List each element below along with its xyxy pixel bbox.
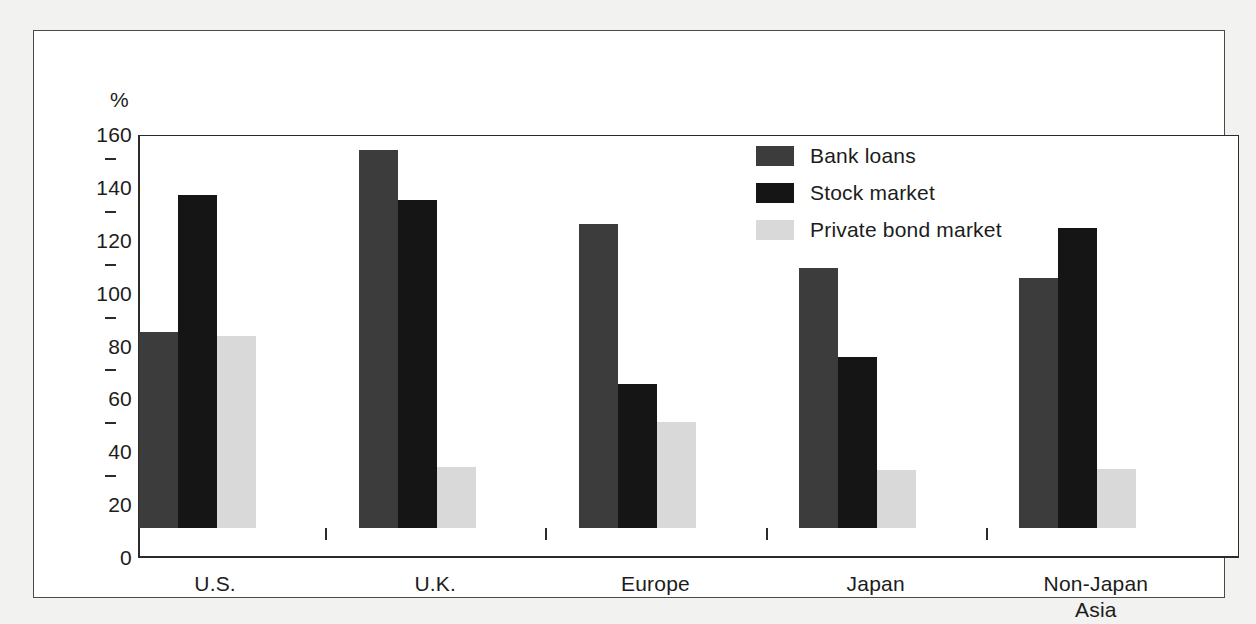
bar xyxy=(398,200,437,528)
x-axis-category-line: Asia xyxy=(986,597,1206,623)
x-axis-group-tick xyxy=(325,528,327,540)
y-axis-tick-mark xyxy=(105,264,116,266)
x-axis-category-label: Non-JapanAsia xyxy=(986,571,1206,623)
y-axis-tick-label: 120 xyxy=(70,229,132,253)
y-axis-tick-mark xyxy=(105,158,116,160)
legend-swatch-icon xyxy=(756,183,794,203)
y-axis-tick-label: 80 xyxy=(70,335,132,359)
bar xyxy=(359,150,398,528)
chart-legend: Bank loansStock marketPrivate bond marke… xyxy=(756,141,1002,252)
y-axis-tick-label: 140 xyxy=(70,176,132,200)
y-axis-tick-label: 0 xyxy=(70,546,132,570)
y-axis-tick-mark xyxy=(105,317,116,319)
x-axis-category-line: U.S. xyxy=(105,571,325,597)
x-axis-category-line: Non-Japan xyxy=(986,571,1206,597)
bar xyxy=(618,384,657,528)
x-axis-category-label: U.K. xyxy=(325,571,545,597)
bar xyxy=(877,470,916,528)
legend-label: Stock market xyxy=(810,181,935,205)
y-axis-tick-mark xyxy=(105,369,116,371)
y-axis-tick-mark xyxy=(105,475,116,477)
bar xyxy=(437,467,476,528)
legend-item: Private bond market xyxy=(756,215,1002,245)
y-axis-tick-label: 160 xyxy=(70,123,132,147)
bar xyxy=(657,422,696,528)
bar xyxy=(579,224,618,528)
bar xyxy=(178,195,217,528)
bar xyxy=(1097,469,1136,528)
bar xyxy=(139,332,178,528)
x-axis-category-line: U.K. xyxy=(325,571,545,597)
bar xyxy=(799,268,838,528)
legend-swatch-icon xyxy=(756,220,794,240)
legend-item: Bank loans xyxy=(756,141,1002,171)
x-axis-group-tick xyxy=(545,528,547,540)
legend-swatch-icon xyxy=(756,146,794,166)
figure-frame: % 020406080100120140160 U.S.U.K.EuropeJa… xyxy=(33,30,1225,598)
x-axis-category-line: Japan xyxy=(766,571,986,597)
y-axis-tick-label: 100 xyxy=(70,282,132,306)
bar xyxy=(217,336,256,528)
y-axis-tick-labels: 020406080100120140160 xyxy=(64,31,132,624)
y-axis-tick-label: 40 xyxy=(70,440,132,464)
y-axis-tick-label: 20 xyxy=(70,493,132,517)
bar xyxy=(1019,278,1058,528)
chart-page: % 020406080100120140160 U.S.U.K.EuropeJa… xyxy=(0,0,1256,624)
legend-label: Bank loans xyxy=(810,144,916,168)
legend-label: Private bond market xyxy=(810,218,1002,242)
bar xyxy=(1058,228,1097,528)
x-axis-category-line: Europe xyxy=(545,571,765,597)
y-axis-tick-mark xyxy=(105,211,116,213)
x-axis-group-tick xyxy=(986,528,988,540)
x-axis-category-label: U.S. xyxy=(105,571,325,597)
x-axis-group-tick xyxy=(766,528,768,540)
y-axis-tick-label: 60 xyxy=(70,387,132,411)
y-axis-tick-mark xyxy=(105,422,116,424)
legend-item: Stock market xyxy=(756,178,1002,208)
x-axis-category-label: Europe xyxy=(545,571,765,597)
x-axis-category-label: Japan xyxy=(766,571,986,597)
bar xyxy=(838,357,877,528)
